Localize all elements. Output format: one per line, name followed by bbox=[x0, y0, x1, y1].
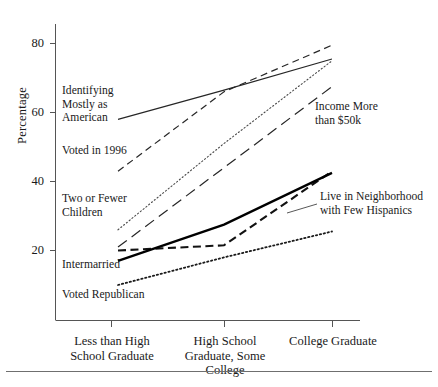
series-voted-in-1996 bbox=[118, 45, 332, 171]
y-tick-marks bbox=[50, 44, 56, 251]
series-label-intermarried: Intermarried bbox=[62, 258, 120, 272]
y-tick-label-20: 20 bbox=[14, 243, 44, 258]
series-intermarried bbox=[118, 173, 332, 261]
y-tick-label-60: 60 bbox=[14, 105, 44, 120]
x-tick-marks bbox=[112, 321, 333, 328]
series-two-or-fewer-children bbox=[118, 61, 332, 230]
chart-container: Percentage 80 60 40 20 Less than High Sc… bbox=[0, 0, 438, 387]
leader-line-hispanics bbox=[287, 204, 317, 213]
series-label-two-or-fewer-children: Two or Fewer Children bbox=[62, 192, 127, 219]
series-label-voted-republican: Voted Republican bbox=[62, 288, 145, 302]
x-category-label-3: College Graduate bbox=[278, 334, 388, 349]
series-label-income-more-than-50k: Income More than $50k bbox=[315, 100, 378, 127]
series-label-voted-in-1996: Voted in 1996 bbox=[62, 144, 127, 158]
series-label-identifying-mostly-as-american: Identifying Mostly as American bbox=[62, 84, 114, 125]
y-tick-label-80: 80 bbox=[14, 36, 44, 51]
series-voted-republican bbox=[118, 232, 332, 286]
series-label-live-in-neighborhood-with-few-hispanics: Live in Neighborhood with Few Hispanics bbox=[320, 190, 423, 217]
x-category-label-1: Less than High School Graduate bbox=[57, 334, 167, 363]
bottom-rule bbox=[6, 371, 432, 372]
y-tick-label-40: 40 bbox=[14, 174, 44, 189]
